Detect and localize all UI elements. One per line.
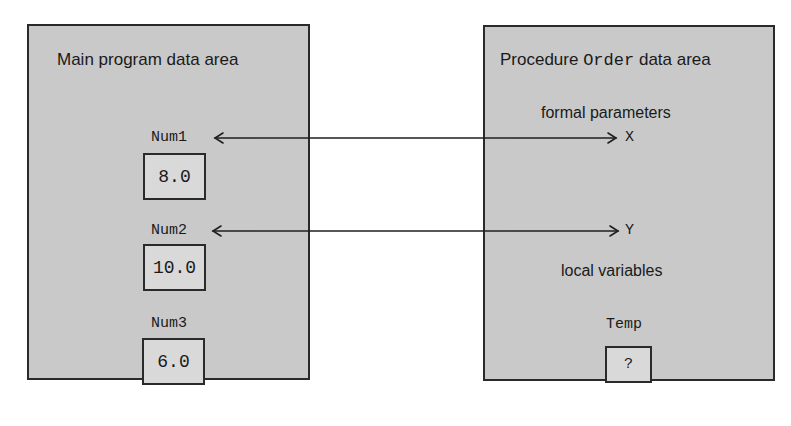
arrow-num2-y [213, 226, 618, 236]
connection-arrows [0, 0, 791, 426]
arrow-num1-x [215, 133, 616, 143]
